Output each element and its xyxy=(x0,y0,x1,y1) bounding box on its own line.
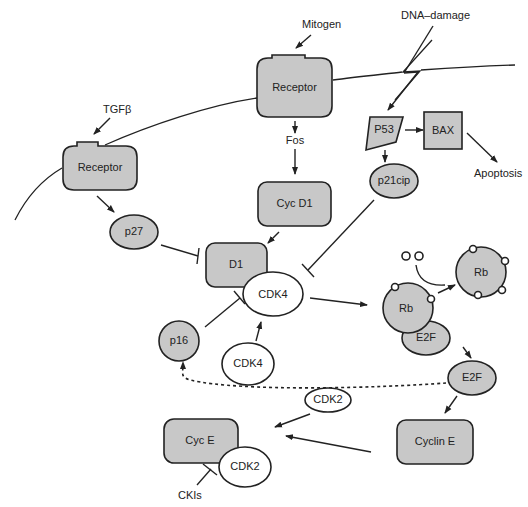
cdk4-rb-arrow xyxy=(310,298,367,305)
rb-e2f-complex[interactable]: E2F Rb xyxy=(383,283,450,355)
p21cip-node[interactable]: p21cip xyxy=(370,164,418,198)
cdk4-bound-label: CDK4 xyxy=(258,288,287,300)
phosphate-icon xyxy=(470,246,477,253)
cyc-d1-node[interactable]: Cyc D1 xyxy=(258,182,331,226)
e2f-free-node[interactable]: E2F xyxy=(448,361,496,395)
phosphate-icon xyxy=(428,296,435,303)
tgfb-arrow xyxy=(94,118,110,134)
cdk4-free-label: CDK4 xyxy=(233,357,262,369)
p53-label: P53 xyxy=(374,123,394,135)
cyc-e-label: Cyc E xyxy=(185,434,214,446)
p27-d1-inhibit xyxy=(161,245,199,264)
receptor-p27-arrow xyxy=(97,196,114,212)
e2f-release-arrow xyxy=(463,347,471,358)
cdk2-free-node[interactable]: CDK2 xyxy=(305,388,351,412)
cycd1-d1-arrow xyxy=(268,232,279,243)
cdk2-free-label: CDK2 xyxy=(313,393,342,405)
dna-damage-label: DNA–damage xyxy=(401,9,470,21)
tgfb-label: TGFβ xyxy=(103,103,131,115)
cycline-cyce-arrow xyxy=(286,436,371,452)
bax-label: BAX xyxy=(432,124,455,136)
receptor-top-label: Receptor xyxy=(272,81,317,93)
receptor-left-label: Receptor xyxy=(78,161,123,173)
cyclin-e-node[interactable]: Cyclin E xyxy=(397,420,473,464)
rb-phosphorylation-arrow xyxy=(438,285,455,293)
p16-inhibit xyxy=(205,291,245,327)
apoptosis-label: Apoptosis xyxy=(474,167,523,179)
cyc-d1-label: Cyc D1 xyxy=(276,197,312,209)
phosphate-icon xyxy=(415,252,423,260)
phosphate-icon xyxy=(499,287,506,294)
bax-node[interactable]: BAX xyxy=(424,112,462,149)
e2f-bound-label: E2F xyxy=(416,331,436,343)
p16-node[interactable]: p16 xyxy=(159,321,199,361)
cyclin-e-label: Cyclin E xyxy=(415,435,455,447)
ckis-inhibit xyxy=(197,464,217,485)
feedback-arrowhead xyxy=(180,361,186,369)
phosphate-icon xyxy=(502,258,509,265)
p27-node[interactable]: p27 xyxy=(110,215,158,249)
p53-node[interactable]: P53 xyxy=(366,117,403,150)
e2f-cycline-arrow xyxy=(445,396,457,413)
mitogen-arrow xyxy=(296,35,311,48)
cdk4-bound-node[interactable]: CDK4 xyxy=(243,272,303,316)
p16-label: p16 xyxy=(170,334,188,346)
receptor-left-node[interactable]: Receptor xyxy=(63,142,137,190)
phosphate-transfer-arc xyxy=(416,265,445,285)
phosphate-icon xyxy=(402,252,410,260)
rb-phospho-label: Rb xyxy=(474,266,488,278)
e2f-free-label: E2F xyxy=(462,371,482,383)
cdk2-bound-node[interactable]: CDK2 xyxy=(219,447,271,487)
rb-bound-label: Rb xyxy=(399,302,413,314)
cdk4-binding-arrow xyxy=(256,322,261,341)
phosphate-icon xyxy=(392,284,399,291)
p27-label: p27 xyxy=(125,225,143,237)
mitogen-label: Mitogen xyxy=(302,18,341,30)
cdk2-bound-label: CDK2 xyxy=(230,460,259,472)
receptor-top-node[interactable]: Receptor xyxy=(257,55,332,117)
ckis-label: CKIs xyxy=(178,489,202,501)
cdk4-free-node[interactable]: CDK4 xyxy=(222,343,274,385)
bax-apoptosis-arrow xyxy=(467,133,497,162)
rb-phospho-node[interactable]: Rb xyxy=(456,246,509,299)
cell-cycle-pathway-diagram: DNA–damage Mitogen Receptor Fos Cyc D1 T… xyxy=(0,0,528,507)
cdk2-cyce-arrow xyxy=(275,414,310,427)
dna-damage-arrow xyxy=(388,26,433,110)
d1-label: D1 xyxy=(229,258,243,270)
p21cip-label: p21cip xyxy=(378,174,410,186)
phosphate-icon xyxy=(475,292,482,299)
fos-label: Fos xyxy=(286,134,305,146)
